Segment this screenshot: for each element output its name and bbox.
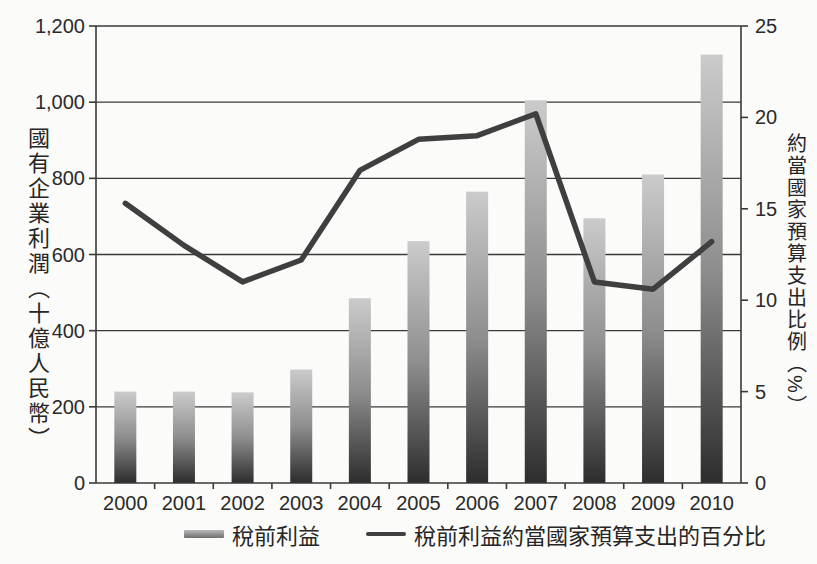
bar-2005 [408,241,430,483]
x-axis-category-label: 2002 [220,492,265,514]
legend-line-label: 稅前利益約當國家預算支出的百分比 [414,518,766,550]
right-axis-tick-label: 0 [755,472,766,494]
legend-bar-label: 稅前利益 [232,518,320,550]
bar-2000 [114,392,136,483]
x-axis-category-label: 2006 [455,492,500,514]
left-axis-tick-label: 1,000 [35,91,85,113]
bar-2004 [349,298,371,483]
x-axis-category-label: 2001 [162,492,207,514]
x-axis-category-label: 2000 [103,492,148,514]
legend-item-line: 稅前利益約當國家預算支出的百分比 [366,518,766,550]
bar-2001 [173,392,195,483]
right-axis-title: 約當國家預算支出比例（%） [781,133,810,417]
left-axis-title: 國有企業利潤（十億人民幣） [20,127,52,452]
right-axis-tick-label: 15 [755,198,777,220]
chart-figure: 02004006008001,0001,20005101520252000200… [0,0,817,564]
chart-legend: 稅前利益 稅前利益約當國家預算支出的百分比 [0,518,817,550]
bar-2007 [525,100,547,483]
x-axis-category-label: 2003 [279,492,324,514]
x-axis-category-label: 2010 [689,492,734,514]
right-axis-tick-label: 20 [755,106,777,128]
legend-item-bars: 稅前利益 [184,518,320,550]
bar-series-swatch-icon [184,530,224,538]
bar-2009 [642,175,664,483]
bar-2006 [466,192,488,483]
x-axis-category-label: 2004 [338,492,383,514]
left-axis-tick-label: 0 [74,472,85,494]
bar-2010 [701,55,723,483]
x-axis-category-label: 2008 [572,492,617,514]
left-axis-tick-label: 400 [52,320,85,342]
x-axis-category-label: 2009 [631,492,676,514]
bar-2003 [290,370,312,483]
left-axis-tick-label: 1,200 [35,15,85,37]
bar-2002 [232,392,254,483]
x-axis-category-label: 2007 [514,492,559,514]
right-axis-tick-label: 10 [755,289,777,311]
right-axis-tick-label: 25 [755,15,777,37]
chart-canvas: 02004006008001,0001,20005101520252000200… [0,0,817,518]
right-axis-tick-label: 5 [755,381,766,403]
left-axis-tick-label: 200 [52,396,85,418]
x-axis-category-label: 2005 [396,492,441,514]
left-axis-tick-label: 600 [52,244,85,266]
left-axis-tick-label: 800 [52,167,85,189]
line-series-swatch-icon [366,532,406,536]
